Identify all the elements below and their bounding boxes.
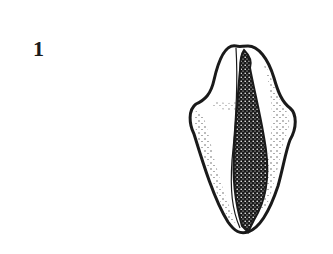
figure-canvas: 1 bbox=[0, 0, 333, 254]
seed-illustration bbox=[0, 0, 333, 254]
